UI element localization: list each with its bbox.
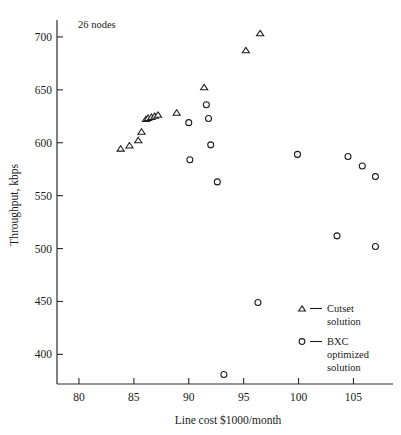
data-point-circle	[359, 163, 365, 169]
series-bxc	[186, 102, 379, 378]
y-tick-label: 650	[35, 84, 53, 96]
x-tick-label: 90	[183, 391, 195, 403]
data-point-circle	[334, 233, 340, 239]
data-point-circle	[187, 157, 193, 163]
x-tick-label: 105	[345, 391, 363, 403]
data-point-triangle	[126, 143, 133, 148]
legend-entry-cutset: Cutsetsolution	[299, 303, 362, 327]
legend-label-line: solution	[327, 362, 362, 373]
data-point-circle	[294, 151, 300, 157]
axes	[57, 20, 393, 384]
annotation-node-count: 26 nodes	[78, 19, 116, 30]
data-point-circle	[372, 243, 378, 249]
scatter-chart: 40045050055060065070080859095100105 26 n…	[0, 0, 401, 435]
x-tick-label: 85	[128, 391, 140, 403]
data-point-circle	[208, 142, 214, 148]
data-point-circle	[255, 300, 261, 306]
legend-label-line: Cutset	[327, 303, 354, 314]
data-point-triangle	[138, 129, 145, 134]
legend-triangle-icon	[299, 306, 306, 311]
data-point-triangle	[242, 47, 249, 52]
series-cutset	[117, 30, 264, 151]
data-point-triangle	[135, 137, 142, 142]
data-point-triangle	[201, 84, 208, 89]
y-tick-label: 600	[35, 137, 53, 149]
x-tick-label: 80	[73, 391, 85, 403]
y-tick-label: 500	[35, 243, 53, 255]
legend-label-line: solution	[327, 316, 362, 327]
x-axis-title: Line cost $1000/month	[175, 414, 282, 426]
data-point-circle	[221, 371, 227, 377]
legend-entry-bxc: BXCoptimizedsolution	[299, 336, 370, 373]
data-point-triangle	[173, 110, 180, 115]
data-point-circle	[206, 115, 212, 121]
y-tick-label: 400	[35, 348, 53, 360]
legend-label-line: BXC	[327, 336, 349, 347]
plot-area: 40045050055060065070080859095100105 26 n…	[0, 0, 401, 435]
data-point-triangle	[117, 146, 124, 151]
x-tick-label: 100	[290, 391, 308, 403]
axis-tick-labels: 40045050055060065070080859095100105	[35, 31, 363, 403]
data-point-circle	[203, 102, 209, 108]
data-point-triangle	[257, 30, 264, 35]
data-point-circle	[214, 179, 220, 185]
data-point-circle	[345, 154, 351, 160]
legend-label-line: optimized	[327, 349, 370, 360]
y-tick-label: 450	[35, 295, 53, 307]
data-point-circle	[372, 174, 378, 180]
chart-legend: CutsetsolutionBXCoptimizedsolution	[299, 303, 370, 373]
chart-annotation: 26 nodes	[78, 19, 116, 30]
data-point-circle	[186, 120, 192, 126]
y-tick-label: 550	[35, 190, 53, 202]
y-axis-title: Throughput, kbps	[8, 164, 21, 246]
legend-circle-icon	[299, 339, 305, 345]
y-tick-label: 700	[35, 31, 53, 43]
x-tick-label: 95	[238, 391, 250, 403]
